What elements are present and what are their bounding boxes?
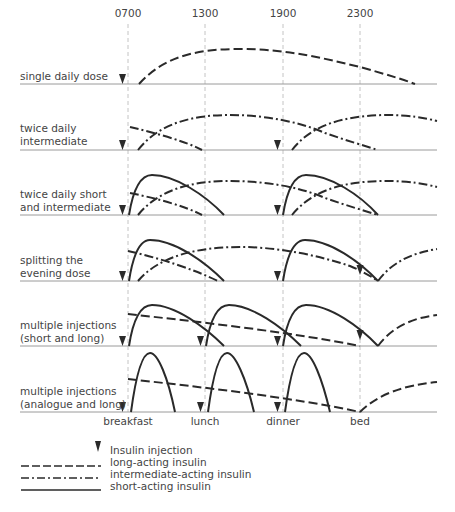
injection-marker-icon bbox=[119, 271, 126, 281]
meal-label-breakfast: breakfast bbox=[103, 415, 152, 427]
time-guides bbox=[128, 24, 360, 412]
meal-label-bed: bed bbox=[350, 415, 370, 427]
injection-marker-icon bbox=[357, 330, 364, 340]
row-multiple-analogue-long-curves bbox=[119, 353, 437, 412]
row-twice-daily-short-intermediate-curves bbox=[119, 175, 437, 215]
time-label-1300: 1300 bbox=[192, 7, 219, 19]
injection-marker-icon bbox=[274, 336, 281, 346]
row-splitting-evening-dose-curves bbox=[119, 240, 437, 281]
legend-label-injection: Insulin injection bbox=[110, 444, 193, 456]
time-label-1900: 1900 bbox=[270, 7, 297, 19]
injection-marker-icon bbox=[119, 74, 126, 84]
row-label-single-daily-dose: single daily dose bbox=[20, 70, 108, 83]
injection-marker-icon bbox=[274, 271, 281, 281]
injection-marker-icon bbox=[197, 336, 204, 346]
injection-marker-icon bbox=[274, 402, 281, 412]
row-label-multiple-short-long: multiple injections (short and long) bbox=[20, 319, 117, 345]
injection-marker-icon bbox=[357, 265, 364, 275]
injection-marker-icon bbox=[197, 402, 204, 412]
time-label-0700: 0700 bbox=[115, 7, 142, 19]
injection-marker-icon bbox=[274, 140, 281, 150]
legend-label-intermediate-acting: intermediate-acting insulin bbox=[110, 468, 251, 480]
injection-marker-icon bbox=[119, 140, 126, 150]
legend-injection-marker-icon bbox=[95, 441, 101, 452]
row-label-splitting-evening-dose: splitting the evening dose bbox=[20, 254, 90, 280]
legend-label-short-acting: short-acting insulin bbox=[110, 480, 211, 492]
meal-label-dinner: dinner bbox=[266, 415, 300, 427]
row-label-twice-daily-intermediate: twice daily intermediate bbox=[20, 122, 88, 148]
row-label-twice-daily-short-intermediate: twice daily short and intermediate bbox=[20, 188, 111, 214]
row-twice-daily-intermediate-curves bbox=[119, 115, 437, 150]
legend-label-long-acting: long-acting insulin bbox=[110, 456, 207, 468]
legend-swatches bbox=[21, 441, 101, 490]
time-label-2300: 2300 bbox=[347, 7, 374, 19]
row-single-daily-dose-curves bbox=[119, 49, 415, 84]
injection-marker-icon bbox=[119, 336, 126, 346]
injection-marker-icon bbox=[119, 205, 126, 215]
row-multiple-short-long-curves bbox=[119, 305, 437, 346]
injection-marker-icon bbox=[274, 205, 281, 215]
meal-label-lunch: lunch bbox=[191, 415, 220, 427]
row-label-multiple-analogue-long: multiple injections (analogue and long) bbox=[20, 385, 126, 411]
